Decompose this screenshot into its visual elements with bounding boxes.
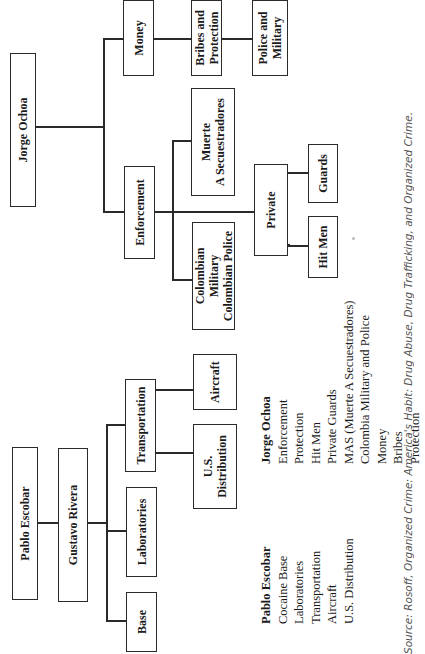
connector [88,523,106,525]
node-label: A Secuestradores [213,98,227,186]
node-gustavo-rivera: Gustavo Rivera [58,448,88,602]
connector [106,621,126,623]
connector [103,39,123,41]
node-colombian-military-police: Colombian Military Colombian Police [192,222,235,330]
node-label: Colombian Police [221,231,235,321]
node-label: Muerte [199,123,213,161]
legend-item: Protection [291,300,308,464]
connector [172,141,174,281]
legend-ochoa: Jorge Ochoa Enforcement Protection Hit M… [258,300,423,464]
node-muerte-a-secuestradores: Muerte A Secuestradores [191,88,235,196]
legend-item: Laboratories [291,538,308,624]
legend-item: U.S. Distribution [341,538,358,624]
node-label: Protection [207,11,221,64]
legend-item: Aircraft [324,538,341,624]
node-bribes-and-protection: Bribes and Protection [191,0,222,76]
connector [36,127,104,129]
node-police-and-military: Police and Military [252,0,288,76]
node-label: Distribution [215,435,229,498]
node-private: Private [254,164,288,256]
node-hit-men: Hit Men [308,216,338,278]
node-pablo-escobar: Pablo Escobar [12,447,38,600]
legend-item: Enforcement [275,300,292,464]
connector [288,246,308,248]
node-label: Laboratories [135,499,149,566]
legend-escobar: Pablo Escobar Cocaine Base Laboratories … [258,538,357,624]
connector [103,212,124,214]
node-label: Police and [256,12,270,65]
legend-item: Cocaine Base [275,538,292,624]
node-laboratories: Laboratories [126,487,157,577]
legend-item: Money [374,300,391,464]
legend-item: Transportation [308,538,325,624]
connector [103,40,105,213]
node-aircraft: Aircraft [193,354,237,410]
node-base: Base [126,592,157,652]
node-label: Enforcement [133,179,147,245]
legend-item: Colombia Military and Police [357,300,374,464]
node-label: Hit Men [316,226,330,269]
node-label: Colombian Military [193,225,221,327]
connector [222,39,252,41]
node-label: Aircraft [208,361,222,403]
node-label: Transportation [134,387,148,465]
node-money: Money [123,0,154,76]
source-caption: Source: Rosoff, Organized Crime: America… [402,0,414,654]
node-jorge-ochoa: Jorge Ochoa [10,53,36,207]
connector [155,212,254,214]
node-label: Gustavo Rivera [66,485,80,565]
legend-item: MAS (Muerte A Secuestradores) [341,300,358,464]
legend-item: Hit Men [308,300,325,464]
connector [156,390,193,392]
node-enforcement: Enforcement [124,166,155,259]
connector [106,531,126,533]
connector [288,173,308,175]
connector [156,453,193,455]
node-label: U.S. [201,456,215,477]
node-label: Bribes and [193,10,207,66]
node-label: Military [270,17,284,60]
org-chart: Jorge Ochoa Money Enforcement Bribes and… [0,0,425,654]
connector [38,523,58,525]
connector [154,39,191,41]
node-label: Private [264,191,278,228]
legend-item: Private Guards [324,300,341,464]
connector [106,425,125,427]
node-us-distribution: U.S. Distribution [193,424,237,509]
connector [172,141,191,143]
connector [106,425,108,622]
legend-title: Jorge Ochoa [258,300,275,464]
node-label: Pablo Escobar [18,486,32,560]
node-label: Money [132,20,146,55]
node-label: Base [135,610,149,634]
node-label: Guards [316,154,330,193]
legend-title: Pablo Escobar [258,538,275,624]
node-label: Jorge Ochoa [16,98,30,163]
speck [352,237,355,240]
node-guards: Guards [308,144,338,203]
node-transportation: Transportation [125,379,156,472]
connector [172,280,192,282]
